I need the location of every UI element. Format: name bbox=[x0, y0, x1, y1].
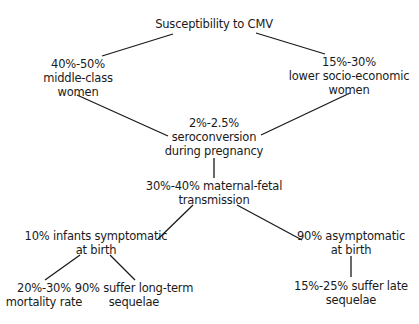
node-text: 40%-50% bbox=[43, 57, 113, 71]
node-text: 2%-2.5% bbox=[165, 116, 263, 130]
node-text: 10% infants symptomatic bbox=[25, 229, 168, 243]
node-text: mortality rate bbox=[6, 295, 82, 309]
edge-lower-class-seroconversion bbox=[261, 93, 350, 135]
node-text: 15%-25% suffer late bbox=[294, 279, 408, 293]
edge-root-middle-class bbox=[102, 34, 173, 56]
node-asymptomatic: 90% asymptomatic at birth bbox=[297, 229, 405, 257]
node-symptomatic: 10% infants symptomatic at birth bbox=[25, 229, 168, 257]
node-text: transmission bbox=[146, 193, 282, 207]
node-seroconversion: 2%-2.5% seroconversion during pregnancy bbox=[165, 116, 263, 158]
node-text: seroconversion bbox=[165, 130, 263, 144]
node-middle-class-women: 40%-50% middle-class women bbox=[43, 57, 113, 99]
node-text: women bbox=[289, 83, 410, 97]
edge-symptomatic-mortality bbox=[45, 255, 80, 280]
node-text: women bbox=[43, 85, 113, 99]
edge-transmission-asymptomatic bbox=[237, 205, 302, 240]
connector-lines bbox=[0, 0, 419, 324]
node-transmission: 30%-40% maternal-fetal transmission bbox=[146, 179, 282, 207]
node-text: at birth bbox=[297, 243, 405, 257]
node-text: during pregnancy bbox=[165, 144, 263, 158]
node-text: sequelae bbox=[294, 293, 408, 307]
node-text: 15%-30% bbox=[289, 55, 410, 69]
node-mortality-rate: 20%-30% mortality rate bbox=[6, 281, 82, 309]
node-text: 90% asymptomatic bbox=[297, 229, 405, 243]
node-text: 30%-40% maternal-fetal bbox=[146, 179, 282, 193]
node-text: sequelae bbox=[75, 295, 193, 309]
edge-symptomatic-long-term bbox=[110, 255, 135, 280]
node-text: Susceptibility to CMV bbox=[155, 17, 273, 31]
node-text: 20%-30% bbox=[6, 281, 82, 295]
node-lower-socioeconomic-women: 15%-30% lower socio-economic women bbox=[289, 55, 410, 97]
node-long-term-sequelae: 90% suffer long-term sequelae bbox=[75, 281, 193, 309]
node-text: at birth bbox=[25, 243, 168, 257]
node-susceptibility: Susceptibility to CMV bbox=[155, 17, 273, 31]
node-text: middle-class bbox=[43, 71, 113, 85]
node-late-sequelae: 15%-25% suffer late sequelae bbox=[294, 279, 408, 307]
node-text: lower socio-economic bbox=[289, 69, 410, 83]
edge-root-lower-class bbox=[256, 33, 325, 54]
node-text: 90% suffer long-term bbox=[75, 281, 193, 295]
edge-middle-class-seroconversion bbox=[77, 95, 168, 136]
